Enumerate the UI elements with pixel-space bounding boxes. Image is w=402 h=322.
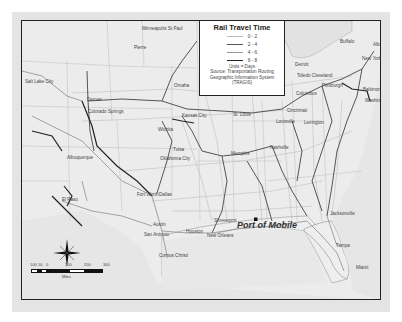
gulf-of-mexico xyxy=(162,229,327,291)
legend: Rail Travel Time 0 - 22 - 44 - 66 - 8 Un… xyxy=(199,20,285,96)
city-label: Dallas xyxy=(159,193,172,198)
scale-tick: 200 xyxy=(84,262,91,267)
city-label: Buffalo xyxy=(340,40,354,45)
city-label: Jacksonville xyxy=(330,212,355,217)
city-label: Louisville xyxy=(276,120,295,125)
scale-tick: 100 xyxy=(30,262,37,267)
scale-tick: 300 xyxy=(103,262,110,267)
legend-classes: 0 - 22 - 44 - 66 - 8 xyxy=(200,32,284,64)
city-label: Nashville xyxy=(270,146,289,151)
city-label: Memphis xyxy=(231,152,250,157)
city-label: Austin xyxy=(153,223,166,228)
city-label: El Paso xyxy=(62,198,78,203)
legend-line-swatch xyxy=(227,52,243,53)
legend-source-3: (TRAGIS) xyxy=(200,80,284,85)
city-label: Salt Lake City xyxy=(25,80,53,85)
city-label: Albuquerque xyxy=(67,156,93,161)
city-label: Colorado Springs xyxy=(88,110,124,115)
city-label: St. Louis xyxy=(233,113,251,118)
legend-title: Rail Travel Time xyxy=(200,23,284,32)
city-label: Lexington xyxy=(304,121,324,126)
city-label: Oklahoma City xyxy=(160,157,190,162)
city-label: Denver xyxy=(87,98,102,103)
city-label: Miami xyxy=(356,266,368,271)
legend-line-swatch xyxy=(227,60,243,61)
city-label: Houston xyxy=(186,230,203,235)
city-label: Omaha xyxy=(174,84,189,89)
city-label: Cincinnati xyxy=(287,109,307,114)
city-label: Wichita xyxy=(158,128,173,133)
city-label: Shreveport xyxy=(214,219,236,224)
legend-label: 2 - 4 xyxy=(248,42,258,47)
city-label: Pittsburgh xyxy=(322,84,343,89)
scale-tick: 50 xyxy=(38,262,42,267)
legend-row: 2 - 4 xyxy=(200,40,284,48)
city-label: Pierre xyxy=(134,46,146,51)
legend-row: 6 - 8 xyxy=(200,56,284,64)
legend-line-swatch xyxy=(227,44,243,45)
city-label: Fort Worth xyxy=(137,193,159,198)
legend-label: 4 - 6 xyxy=(248,50,258,55)
city-label: Albany xyxy=(373,43,381,48)
city-label: Tulsa xyxy=(173,148,184,153)
city-label: Corpus Christi xyxy=(159,254,188,259)
city-label: New Orleans xyxy=(207,234,234,239)
rail-0-2 xyxy=(72,76,352,221)
port-of-mobile-label: Port of Mobile xyxy=(237,220,297,230)
city-label: Baltimore xyxy=(363,88,381,93)
city-label: Detroit xyxy=(295,63,309,68)
rail-travel-time-map[interactable]: Minneapolis St PaulPierreSalt Lake CityO… xyxy=(21,20,381,300)
scale-unit-label: Miles xyxy=(62,275,71,279)
city-label: Toledo Cleveland xyxy=(297,74,332,79)
city-label: Kansas City xyxy=(182,114,207,119)
scale-bar xyxy=(31,269,103,273)
legend-line-swatch xyxy=(227,36,243,37)
scale-tick: 0 xyxy=(46,262,48,267)
scale-tick: 100 xyxy=(65,262,72,267)
city-label: New York xyxy=(362,57,381,62)
city-label: Tampa xyxy=(336,244,350,249)
city-label: San Antonio xyxy=(144,233,169,238)
city-label: Washington xyxy=(365,99,381,104)
city-label: Columbus xyxy=(296,92,317,97)
city-label: Minneapolis St Paul xyxy=(142,27,183,32)
legend-label: 6 - 8 xyxy=(248,58,258,63)
legend-row: 4 - 6 xyxy=(200,48,284,56)
legend-row: 0 - 2 xyxy=(200,32,284,40)
legend-label: 0 - 2 xyxy=(248,34,258,39)
